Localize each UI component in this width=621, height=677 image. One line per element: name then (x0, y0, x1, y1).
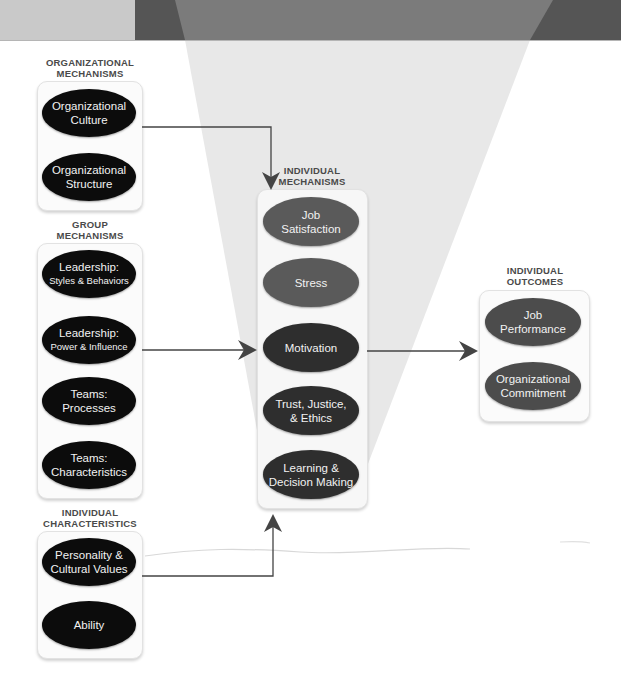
oval-label: Trust, Justice, (275, 397, 346, 411)
banner-light (0, 0, 135, 40)
oval-label: Satisfaction (281, 222, 340, 236)
title-line: INDIVIDUAL (20, 507, 160, 518)
oval-label: Cultural Values (50, 562, 127, 576)
oval-label: Stress (295, 276, 328, 290)
oval-job-satisfaction: JobSatisfaction (263, 197, 359, 246)
oval-label: Decision Making (269, 475, 353, 489)
individual-mechanisms-title: INDIVIDUAL MECHANISMS (272, 165, 352, 187)
title-line: ORGANIZATIONAL (20, 57, 160, 68)
title-line: MECHANISMS (20, 68, 160, 79)
stray-curve-2 (560, 542, 590, 543)
oval-label: Styles & Behaviors (49, 274, 129, 288)
oval-ability: Ability (42, 601, 136, 649)
oval-label: Ability (74, 618, 105, 632)
oval-label: Job (500, 308, 566, 322)
oval-job-performance: JobPerformance (485, 298, 581, 346)
title-line: MECHANISMS (20, 230, 160, 241)
oval-motivation: Motivation (263, 323, 359, 372)
oval-label: Culture (52, 113, 126, 127)
oval-label: Power & Influence (50, 340, 127, 354)
spotlight-top (175, 0, 553, 40)
oval-stress: Stress (263, 258, 359, 307)
oval-label: Processes (62, 401, 116, 415)
oval-label: Characteristics (51, 465, 127, 479)
oval-label: Organizational (52, 163, 126, 177)
oval-organizational-structure: OrganizationalStructure (42, 153, 136, 201)
oval-label: Organizational (52, 99, 126, 113)
oval-label: Job (281, 208, 340, 222)
oval-label: Commitment (496, 386, 570, 400)
oval-organizational-culture: OrganizationalCulture (42, 89, 136, 137)
oval-personality-cultural-values: Personality &Cultural Values (42, 538, 136, 586)
oval-label: Leadership: (49, 260, 129, 274)
oval-label: Teams: (62, 387, 116, 401)
oval-label: Leadership: (50, 326, 127, 340)
individual-outcomes-title: INDIVIDUAL OUTCOMES (495, 265, 575, 287)
oval-leadership-power: Leadership:Power & Influence (42, 316, 136, 364)
organizational-mechanisms-title: ORGANIZATIONAL MECHANISMS (20, 57, 160, 79)
oval-organizational-commitment: OrganizationalCommitment (485, 362, 581, 410)
oval-label: & Ethics (275, 411, 346, 425)
individual-characteristics-title: INDIVIDUAL CHARACTERISTICS (20, 507, 160, 529)
title-line: INDIVIDUAL (495, 265, 575, 276)
oval-label: Organizational (496, 372, 570, 386)
oval-learning-decision-making: Learning &Decision Making (263, 450, 359, 499)
oval-label: Personality & (50, 548, 127, 562)
oval-teams-processes: Teams:Processes (42, 377, 136, 425)
title-line: GROUP (20, 219, 160, 230)
oval-trust-justice-ethics: Trust, Justice,& Ethics (263, 386, 359, 435)
oval-label: Performance (500, 322, 566, 336)
oval-leadership-styles: Leadership:Styles & Behaviors (42, 250, 136, 298)
title-line: OUTCOMES (495, 276, 575, 287)
oval-label: Teams: (51, 451, 127, 465)
title-line: INDIVIDUAL (272, 165, 352, 176)
title-line: MECHANISMS (272, 176, 352, 187)
oval-label: Motivation (285, 341, 337, 355)
oval-teams-characteristics: Teams:Characteristics (42, 441, 136, 489)
title-line: CHARACTERISTICS (20, 518, 160, 529)
group-mechanisms-title: GROUP MECHANISMS (20, 219, 160, 241)
oval-label: Structure (52, 177, 126, 191)
stray-curve (145, 548, 470, 556)
oval-label: Learning & (269, 461, 353, 475)
